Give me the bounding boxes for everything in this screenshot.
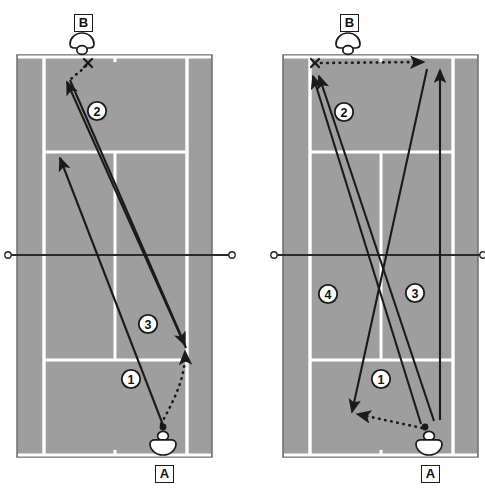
badge-4-label: 4 xyxy=(325,288,332,302)
net-post-left xyxy=(5,252,11,258)
player-a-body xyxy=(150,440,176,455)
player-b-head xyxy=(77,46,87,55)
player-a-body xyxy=(416,440,442,455)
ball-contact-dot xyxy=(422,424,429,431)
player-a-label-box: A xyxy=(155,465,174,483)
player-b-head xyxy=(343,46,353,55)
badge-2-label: 2 xyxy=(94,105,101,119)
figure-root: 1 2 3 B A xyxy=(0,0,485,494)
badge-1-label: 1 xyxy=(378,373,385,387)
net-post-right xyxy=(480,252,485,258)
player-b-label: B xyxy=(345,15,354,30)
court-diagram-left: 1 2 3 B A xyxy=(0,0,242,494)
player-b-label-box: B xyxy=(74,14,93,32)
player-b-icon xyxy=(336,33,360,54)
net-post-left xyxy=(271,252,277,258)
player-b-label: B xyxy=(79,15,88,30)
right-court-svg: 1 2 3 4 xyxy=(243,0,485,494)
player-a-label: A xyxy=(160,466,169,481)
badge-1-label: 1 xyxy=(128,373,135,387)
player-a-label-box: A xyxy=(421,465,440,483)
court-diagram-right: 1 2 3 4 B A xyxy=(243,0,485,494)
player-b-icon xyxy=(70,33,94,54)
badge-2-label: 2 xyxy=(341,106,348,120)
badge-3-label: 3 xyxy=(412,287,419,301)
left-court-svg: 1 2 3 xyxy=(0,0,242,494)
player-b-label-box: B xyxy=(340,14,359,32)
player-a-label: A xyxy=(426,466,435,481)
badge-3-label: 3 xyxy=(145,318,152,332)
net-post-right xyxy=(229,252,235,258)
ball-contact-dot xyxy=(160,424,167,431)
